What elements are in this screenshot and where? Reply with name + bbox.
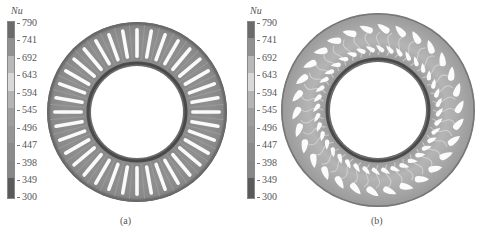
panel-a: Nu 790 741 692 643 594 545 496 447 398 3… — [0, 0, 240, 236]
tick-label: 447 — [22, 140, 37, 150]
tick-label: 692 — [22, 53, 37, 63]
tick-label: 398 — [22, 158, 37, 168]
tick-label: 790 — [22, 18, 37, 28]
tick-label: 496 — [22, 123, 37, 133]
colorbar-b — [247, 21, 255, 199]
caption-a: (a) — [120, 215, 131, 226]
tick-label: 741 — [22, 35, 37, 45]
nusselt-contour-a — [37, 12, 237, 212]
colorbar-b-title: Nu — [250, 5, 262, 16]
colorbar-a — [7, 21, 15, 199]
caption-b: (b) — [371, 215, 383, 226]
tick-label: 349 — [22, 175, 37, 185]
tick-label: 300 — [22, 192, 37, 202]
tick-label: 594 — [22, 88, 37, 98]
nusselt-contour-b — [273, 5, 480, 215]
tick-label: 545 — [22, 105, 37, 115]
panel-b: Nu 790 741 692 643 594 545 496 447 398 3… — [240, 0, 480, 236]
colorbar-a-title: Nu — [11, 5, 23, 16]
tick-label: 643 — [22, 70, 37, 80]
